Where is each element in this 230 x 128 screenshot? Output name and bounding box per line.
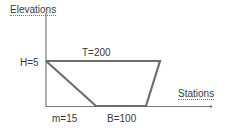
x-axis-arrow-icon	[210, 105, 213, 108]
channel-trapezoid	[46, 61, 160, 106]
height-label: H=5	[20, 57, 39, 68]
bottom-width-label: B=100	[107, 113, 136, 124]
side-slope-label: m=15	[52, 113, 77, 124]
y-axis-label: Elevations	[10, 4, 56, 16]
top-width-label: T=200	[82, 47, 111, 58]
x-axis-label: Stations	[178, 88, 214, 100]
